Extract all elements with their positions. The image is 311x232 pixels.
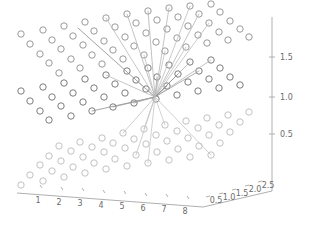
- x-tick-label: 4: [98, 201, 103, 210]
- z-tick-label: 1.0: [280, 93, 293, 102]
- y-tick-label: 2.5: [262, 181, 275, 190]
- x-tick-label: 3: [77, 199, 82, 208]
- y-tick-label: 1.0: [223, 193, 236, 202]
- z-tick-label: 1.5: [280, 53, 293, 62]
- plot-background: [0, 0, 311, 232]
- x-tick-label: 5: [119, 202, 124, 211]
- y-tick-label: 0.5: [210, 196, 223, 205]
- x-tick-label: 2: [56, 198, 61, 207]
- x-tick-label: 6: [140, 204, 145, 213]
- plot-canvas: 1.51.00.5123456780.51.01.52.02.5: [0, 0, 311, 232]
- z-tick-label: 0.5: [280, 130, 293, 139]
- x-tick-label: 1: [35, 196, 40, 205]
- y-tick-label: 2.0: [249, 185, 262, 194]
- y-tick-label: 1.5: [236, 189, 249, 198]
- x-tick-label: 7: [161, 205, 166, 214]
- scatter3d-plot: 1.51.00.5123456780.51.01.52.02.5: [0, 0, 311, 232]
- x-tick-label: 8: [182, 207, 187, 216]
